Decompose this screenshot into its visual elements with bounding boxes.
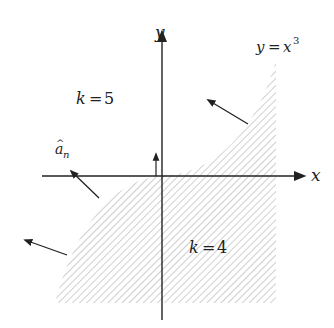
svg-text:4: 4 — [217, 238, 227, 257]
svg-text:^: ^ — [56, 137, 64, 148]
diagram-canvas: y x y = x 3 k = 5 k = 4 a ^ n — [0, 0, 334, 328]
svg-text:=: = — [202, 238, 215, 257]
svg-text:k: k — [189, 238, 199, 257]
normal-vector-label: a ^ n — [55, 137, 69, 160]
svg-text:y: y — [255, 38, 265, 56]
y-axis-label: y — [154, 22, 165, 42]
svg-text:=: = — [89, 89, 102, 108]
x-axis-label: x — [311, 165, 321, 185]
svg-text:3: 3 — [293, 35, 299, 46]
normal-arrow-upper-right — [208, 100, 248, 124]
svg-text:k: k — [76, 89, 86, 108]
region-label-k5: k = 5 — [76, 89, 114, 108]
svg-text:x: x — [283, 38, 292, 56]
region-label-k4: k = 4 — [189, 238, 227, 257]
normal-arrow-lower-left — [25, 240, 67, 255]
svg-text:=: = — [268, 38, 281, 56]
curve-label: y = x 3 — [255, 35, 299, 56]
svg-text:5: 5 — [104, 89, 114, 108]
svg-text:n: n — [63, 149, 69, 160]
normal-arrow-an — [71, 171, 99, 198]
